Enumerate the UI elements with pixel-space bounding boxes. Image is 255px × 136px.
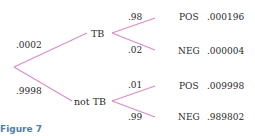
figure-caption: Figure 7 bbox=[0, 124, 42, 134]
node-not-tb: not TB bbox=[74, 97, 106, 107]
joint-nottb-neg: .989802 bbox=[207, 113, 244, 122]
branch-root-tb bbox=[14, 33, 87, 67]
outcome-tb-pos: POS bbox=[179, 13, 199, 22]
joint-nottb-pos: .009998 bbox=[207, 82, 244, 91]
prob-label-nottb-pos: .01 bbox=[128, 81, 142, 90]
prob-label-tb-pos: .98 bbox=[128, 13, 142, 22]
outcome-nottb-neg: NEG bbox=[178, 113, 200, 122]
prob-label-nottb-neg: .99 bbox=[128, 113, 142, 122]
probability-tree-diagram: .0002 TB .9998 not TB .98 .02 .01 .99 PO… bbox=[0, 0, 255, 136]
joint-tb-pos: .000196 bbox=[207, 13, 244, 22]
outcome-tb-neg: NEG bbox=[178, 47, 200, 56]
joint-tb-neg: .000004 bbox=[207, 47, 244, 56]
prob-label-tb-neg: .02 bbox=[128, 46, 142, 55]
outcome-nottb-pos: POS bbox=[179, 82, 199, 91]
node-tb: TB bbox=[91, 29, 104, 39]
prob-label-not-tb: .9998 bbox=[16, 87, 42, 96]
prob-label-tb: .0002 bbox=[16, 41, 42, 50]
